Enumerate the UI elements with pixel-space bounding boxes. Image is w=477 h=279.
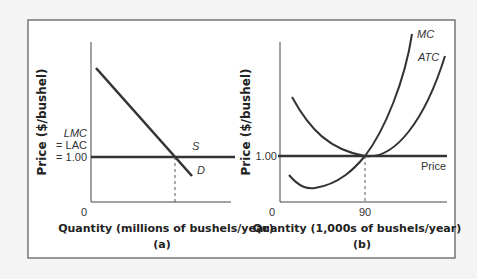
s-label: S bbox=[192, 140, 200, 152]
price-tick-a: = 1.00 bbox=[56, 151, 87, 163]
figure: Price ($/bushel) LMC = LAC = 1.00 S D 0 … bbox=[0, 0, 477, 279]
d-label: D bbox=[197, 164, 205, 176]
price-tick-b: 1.00 bbox=[256, 150, 277, 162]
caption-a: (a) bbox=[153, 238, 170, 251]
price-label: Price bbox=[421, 160, 446, 172]
atc-label: ATC bbox=[417, 51, 439, 63]
x-axis-label-a: Quantity (millions of bushels/year) bbox=[58, 222, 274, 235]
x-axis-label-b: Quantity (1,000s of bushels/year) bbox=[253, 222, 461, 235]
lmc-label: LMC bbox=[64, 127, 87, 139]
mc-label: MC bbox=[417, 28, 434, 40]
y-axis-label-b: Price ($/bushel) bbox=[239, 68, 253, 175]
lac-label: = LAC bbox=[56, 139, 87, 151]
origin-a: 0 bbox=[81, 206, 87, 218]
y-axis-label-a: Price ($/bushel) bbox=[35, 68, 49, 175]
origin-b: 0 bbox=[269, 206, 275, 218]
x-tick-90: 90 bbox=[359, 206, 371, 218]
caption-b: (b) bbox=[353, 238, 371, 251]
